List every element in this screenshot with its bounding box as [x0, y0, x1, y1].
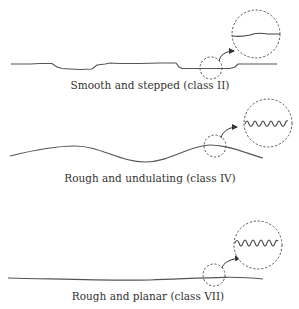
arrow-icon — [221, 127, 237, 138]
panel-label: Rough and planar (class VII) — [72, 290, 224, 302]
panel-label: Rough and undulating (class IV) — [64, 172, 235, 184]
panel-class-vii: Rough and planar (class VII) — [8, 221, 282, 302]
planar-profile-line — [8, 277, 263, 280]
panel-class-iv: Rough and undulating (class IV) — [10, 99, 292, 184]
arrow-icon — [222, 258, 240, 268]
undulating-profile-line — [10, 145, 263, 162]
arrow-icon — [219, 51, 234, 61]
joint-roughness-diagram: Smooth and stepped (class II) Rough and … — [0, 0, 299, 309]
stepped-profile-line — [11, 63, 277, 70]
panel-label: Smooth and stepped (class II) — [71, 79, 230, 91]
panel-class-ii: Smooth and stepped (class II) — [11, 10, 280, 91]
